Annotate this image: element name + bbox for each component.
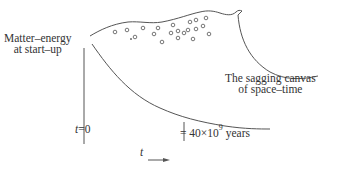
t-zero-eq: =0 [78,123,90,135]
sagging-canvas-label-line2: of space–time [225,84,316,95]
sagging-canvas-label: The sagging canvas of space–time [225,73,316,95]
matter-energy-label: Matter–energy at start–up [4,33,71,55]
time-axis-label: t [140,147,143,159]
matter-energy-label-line2: at start–up [4,44,71,55]
spacetime-upper-curve [90,10,318,78]
spacetime-diagram: Matter–energy at start–up The sagging ca… [0,0,351,170]
years-prefix: = 40×10 [180,127,219,139]
galaxy-dots [113,16,211,44]
time-arrow-head-icon [163,158,170,162]
years-exponent: 9 [219,123,223,132]
years-suffix: years [223,127,250,139]
years-label: = 40×109 years [180,126,250,139]
t-zero-label: t=0 [75,124,90,136]
